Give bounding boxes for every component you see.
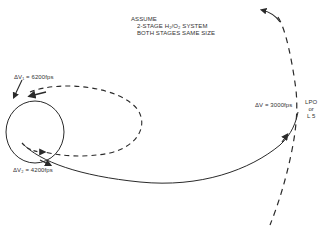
destination-label: LPO or L 5 — [305, 99, 317, 120]
dv1-pointer-arrow — [14, 80, 22, 97]
destination-line-1: LPO — [305, 99, 317, 106]
assumptions-heading: ASSUME — [131, 16, 215, 23]
destination-trajectory — [270, 17, 297, 225]
assumptions-line-1: 2-STAGE H₂/O₂ SYSTEM — [131, 23, 215, 30]
ellipse-lower-dashed-arrow — [22, 143, 44, 152]
dv1-label: ΔV₁ = 6200fps — [14, 74, 54, 81]
assumptions-note: ASSUME 2-STAGE H₂/O₂ SYSTEM BOTH STAGES … — [131, 16, 215, 37]
assumptions-line-2: BOTH STAGES SAME SIZE — [131, 30, 215, 37]
elliptical-transfer-orbit — [30, 86, 142, 156]
destination-line-2: or — [305, 106, 317, 113]
transfer-trajectory — [22, 112, 298, 183]
ellipse-entry-arrow — [30, 92, 46, 96]
dv3-label: ΔV = 3000fps — [255, 102, 292, 109]
dv2-label: ΔV₂ = 4200fps — [13, 167, 53, 174]
destination-top-arrow — [262, 10, 280, 22]
destination-line-3: L 5 — [305, 113, 317, 120]
